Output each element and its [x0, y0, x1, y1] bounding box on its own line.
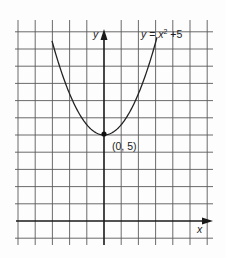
y-axis-label: y [92, 28, 99, 40]
graph: y x (0, 5) y = x2 +5 [0, 0, 226, 258]
y-axis-arrow-icon [101, 29, 108, 40]
equation-label: y = x2 +5 [140, 28, 182, 40]
x-axis-label: x [196, 223, 203, 235]
grid [15, 20, 213, 245]
vertex-label: (0, 5) [112, 140, 137, 152]
vertex-point [101, 131, 106, 136]
